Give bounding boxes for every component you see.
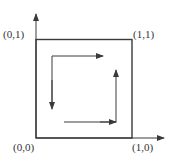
unit-square [36,40,132,139]
label-top-left: (0,1) [3,29,24,40]
flow-arrow-bottom-right [64,70,116,122]
label-bottom-right: (1,0) [132,142,153,153]
flow-arrow-top-left [52,56,103,108]
unit-square-diagram: (0,1) (1,1) (0,0) (1,0) [0,0,169,165]
label-origin: (0,0) [13,142,34,153]
label-top-right: (1,1) [133,29,154,40]
